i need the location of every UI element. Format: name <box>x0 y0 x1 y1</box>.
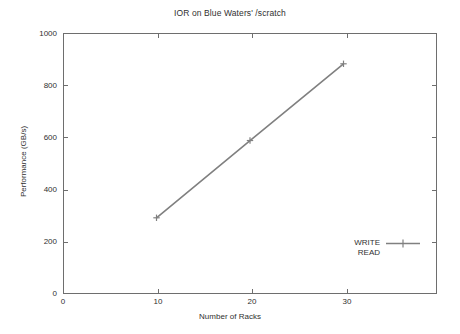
x-axis-label: Number of Racks <box>0 312 460 321</box>
x-tick-label-0: 0 <box>43 297 83 306</box>
y-tick-label-200: 200 <box>11 237 57 246</box>
x-tick-mark-30-bottom <box>347 289 348 294</box>
y-tick-mark-1000-right <box>432 33 437 34</box>
legend: WRITE READ <box>344 238 434 258</box>
x-tick-mark-20-top <box>252 33 253 38</box>
legend-label-write: WRITE <box>344 238 380 248</box>
x-tick-mark-20-bottom <box>252 289 253 294</box>
y-tick-mark-800-left <box>63 85 68 86</box>
x-tick-label-30: 30 <box>327 297 367 306</box>
y-tick-label-800: 800 <box>11 81 57 90</box>
x-tick-mark-10-top <box>158 33 159 38</box>
chart-container: IOR on Blue Waters' /scratch 1000 800 60… <box>0 0 460 334</box>
y-tick-mark-800-right <box>432 85 437 86</box>
x-tick-mark-30-top <box>347 33 348 38</box>
y-tick-mark-400-right <box>432 190 437 191</box>
y-tick-mark-600-left <box>63 137 68 138</box>
legend-row-read: READ <box>344 248 434 258</box>
x-tick-label-10: 10 <box>138 297 178 306</box>
y-tick-label-1000: 1000 <box>11 29 57 38</box>
legend-label-read: READ <box>344 248 380 258</box>
chart-title: IOR on Blue Waters' /scratch <box>0 8 460 18</box>
y-tick-mark-400-left <box>63 190 68 191</box>
y-tick-mark-600-right <box>432 137 437 138</box>
x-tick-label-20: 20 <box>232 297 272 306</box>
y-tick-mark-200-left <box>63 242 68 243</box>
legend-row-write: WRITE <box>344 238 434 248</box>
y-tick-mark-1000-left <box>63 33 68 34</box>
x-tick-mark-10-bottom <box>158 289 159 294</box>
y-axis-label: Performance (GB/s) <box>19 92 28 232</box>
